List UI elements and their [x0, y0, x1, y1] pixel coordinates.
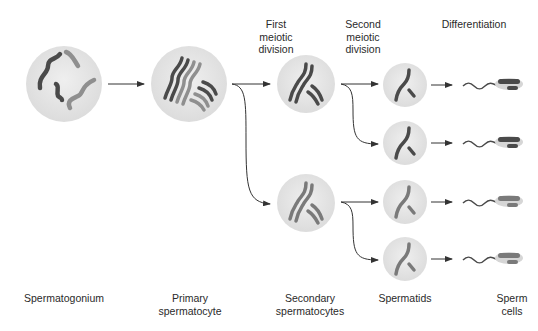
spermatid-cell — [383, 63, 427, 107]
label-sperm-cells: Sperm cells — [490, 292, 534, 317]
sperm-cell — [463, 195, 523, 207]
label-primary-spermatocyte: Primary spermatocyte — [150, 292, 230, 317]
label-spermatids: Spermatids — [370, 292, 440, 305]
primary-spermatocyte-cell — [151, 46, 227, 122]
header-second-meiotic-division: Second meiotic division — [335, 18, 391, 56]
label-secondary-spermatocytes: Secondary spermatocytes — [270, 292, 350, 317]
sperm-cell — [463, 252, 523, 264]
header-first-meiotic-division: First meiotic division — [248, 18, 304, 56]
sperm-cell — [463, 136, 523, 148]
sperm-cell — [463, 78, 523, 90]
label-spermatogonium: Spermatogonium — [14, 292, 114, 305]
secondary-spermatocyte-cell — [277, 174, 335, 232]
arrow — [341, 202, 378, 260]
spermatogonium-cell — [26, 46, 102, 122]
arrow — [232, 84, 270, 204]
spermatid-cell — [383, 237, 427, 281]
spermatid-cell — [383, 180, 427, 224]
arrow — [341, 84, 378, 144]
header-differentiation: Differentiation — [424, 18, 524, 31]
secondary-spermatocyte-cell — [277, 55, 335, 113]
spermatid-cell — [383, 121, 427, 165]
